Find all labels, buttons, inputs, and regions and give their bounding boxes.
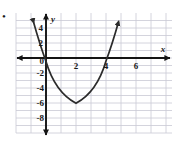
graph-figure: 2 4 6 4 2 0 -2 -4 -6 -8 y x •	[0, 0, 179, 147]
y-tick-label-2: 2	[39, 38, 44, 48]
y-tick-label-4: 4	[39, 23, 44, 33]
y-tick-label-neg2: -2	[37, 68, 45, 78]
x-tick-label-4: 4	[104, 61, 109, 71]
x-tick-label-2: 2	[74, 61, 79, 71]
coordinate-plane: 2 4 6 4 2 0 -2 -4 -6 -8 y x •	[0, 0, 179, 147]
item-bullet-icon: •	[2, 10, 6, 22]
x-axis-label: x	[160, 44, 166, 54]
x-tick-label-6: 6	[134, 61, 139, 71]
y-tick-label-neg4: -4	[37, 83, 45, 93]
y-tick-label-neg6: -6	[37, 98, 45, 108]
chart-background	[0, 0, 179, 147]
y-tick-label-0: 0	[40, 56, 45, 66]
y-tick-label-neg8: -8	[37, 113, 45, 123]
